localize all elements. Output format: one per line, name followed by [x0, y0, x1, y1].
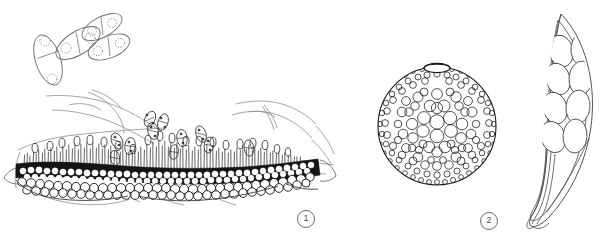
free-conidia-large — [28, 8, 133, 89]
free-conidia-small — [109, 109, 255, 166]
figure-plate: 1 2 — [0, 0, 615, 238]
conidium-small-4 — [142, 109, 158, 128]
panel-2-pycnidium — [374, 63, 500, 185]
pycnidium-outline — [378, 67, 496, 185]
figure-label-1: 1 — [297, 210, 315, 228]
ostiole — [424, 63, 450, 72]
panel-1-acervulus — [4, 8, 336, 205]
panel-3-ascus — [527, 14, 597, 228]
conidium-large-1 — [28, 31, 68, 88]
plate-artwork — [0, 0, 615, 238]
figure-label-2: 2 — [480, 212, 498, 230]
conidium-small-6 — [176, 129, 188, 147]
conidium-large-2 — [51, 20, 106, 66]
conidium-small-8 — [203, 136, 215, 153]
phialide-tips — [32, 131, 291, 156]
conidium-small-2 — [124, 137, 137, 155]
